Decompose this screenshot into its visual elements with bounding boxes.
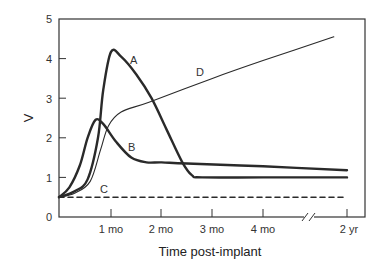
- y-tick-labels: 0 1 2 3 4 5: [46, 13, 52, 223]
- y-tick-label: 4: [46, 53, 52, 65]
- series-label-a: A: [130, 54, 138, 66]
- x-tick-label: 2 mo: [149, 223, 173, 235]
- y-tick-label: 0: [46, 211, 52, 223]
- series-layer: [59, 37, 347, 197]
- x-tick-label: 4 mo: [251, 223, 275, 235]
- y-tick-label: 1: [46, 172, 52, 184]
- x-tick-label: 1 mo: [99, 223, 123, 235]
- x-tick-label: 3 mo: [200, 223, 224, 235]
- series-label-b: B: [128, 141, 135, 153]
- series-label-c: C: [100, 183, 108, 195]
- y-tick-label: 2: [46, 132, 52, 144]
- y-tick-label: 3: [46, 93, 52, 105]
- x-axis-title: Time post-implant: [159, 244, 262, 259]
- y-tick-label: 5: [46, 13, 52, 25]
- chart: 0 1 2 3 4 5 1 mo 2 mo 3 mo 4 mo 2 yr Tim…: [0, 0, 385, 265]
- x-tick-labels: 1 mo 2 mo 3 mo 4 mo 2 yr: [99, 223, 359, 235]
- series-label-d: D: [196, 66, 204, 78]
- x-tick-label: 2 yr: [340, 223, 359, 235]
- y-axis: [59, 59, 66, 178]
- y-axis-title: V: [21, 113, 36, 122]
